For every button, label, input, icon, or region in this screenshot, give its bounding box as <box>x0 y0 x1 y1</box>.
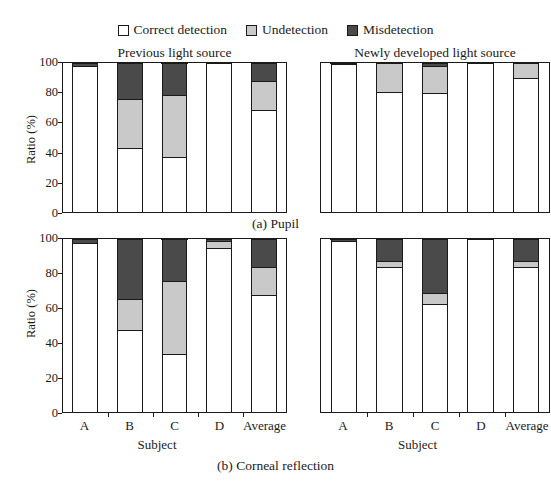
bar-top-edge <box>376 63 403 64</box>
bar-segment-misdetection <box>163 239 187 282</box>
y-tick-label: 80 <box>46 85 59 100</box>
legend-label-correct: Correct detection <box>134 22 227 38</box>
y-axis-ticks-corneal: 020406080100 <box>28 238 58 413</box>
bar-segment-undetection <box>252 82 276 110</box>
x-axis-labels-right: ABCDAverage <box>320 418 550 434</box>
group-title-newly-pupil: Newly developed light source <box>320 45 550 61</box>
stacked-bar <box>331 63 357 212</box>
bar-cell <box>241 63 286 212</box>
bar-top-edge <box>513 239 540 240</box>
plot-pupil-newly <box>320 62 550 213</box>
bar-cell <box>241 239 286 412</box>
bar-top-edge <box>206 63 232 64</box>
bar-segment-correct-detection <box>423 94 447 212</box>
x-tick-label: B <box>107 418 152 434</box>
bar-group-pupil-newly <box>321 63 549 212</box>
bar-segment-correct-detection <box>207 249 231 412</box>
bar-segment-undetection <box>118 300 142 331</box>
caption-corneal: (b) Corneal reflection <box>0 458 551 474</box>
stacked-bar <box>117 239 143 412</box>
y-tick-mark <box>58 413 62 414</box>
x-tick-mark <box>505 413 506 417</box>
bar-cell <box>63 239 108 412</box>
stacked-bar <box>162 239 188 412</box>
bar-segment-correct-detection <box>377 268 401 412</box>
bar-group-pupil-previous <box>63 63 286 212</box>
stacked-bar <box>72 63 98 212</box>
bar-segment-correct-detection <box>514 268 538 412</box>
figure-root: Correct detection Undetection Misdetecti… <box>0 0 551 494</box>
bar-segment-correct-detection <box>377 93 401 212</box>
bar-cell <box>63 63 108 212</box>
bar-segment-undetection <box>377 262 401 269</box>
bar-segment-correct-detection <box>423 305 447 412</box>
y-tick-label: 40 <box>46 336 59 351</box>
bar-segment-misdetection <box>118 239 142 300</box>
y-tick-label: 80 <box>46 266 59 281</box>
legend-swatch-correct-icon <box>118 25 129 36</box>
stacked-bar <box>422 63 448 212</box>
bar-top-edge <box>251 63 277 64</box>
bar-segment-undetection <box>514 262 538 269</box>
bar-segment-misdetection <box>163 63 187 96</box>
bar-cell <box>503 63 549 212</box>
bar-segment-misdetection <box>118 63 142 100</box>
stacked-bar <box>331 239 357 412</box>
bar-cell <box>152 239 197 412</box>
bar-top-edge <box>251 239 277 240</box>
stacked-bar <box>513 239 539 412</box>
x-axis-title-left: Subject <box>62 437 252 453</box>
bar-segment-undetection <box>118 100 142 149</box>
legend: Correct detection Undetection Misdetecti… <box>0 22 551 38</box>
bar-cell <box>108 239 153 412</box>
x-tick-mark <box>459 413 460 417</box>
group-title-previous-pupil: Previous light source <box>62 45 287 61</box>
y-tick-mark <box>58 213 62 214</box>
y-tick-label: 20 <box>46 371 59 386</box>
bar-cell <box>367 239 413 412</box>
bar-segment-correct-detection <box>514 79 538 212</box>
bar-top-edge <box>467 239 494 240</box>
bar-cell <box>412 239 458 412</box>
plot-pupil-previous <box>62 62 287 213</box>
bar-segment-misdetection <box>377 239 401 261</box>
bar-top-edge <box>206 239 232 240</box>
x-tick-label: D <box>197 418 242 434</box>
bar-segment-correct-detection <box>332 65 356 212</box>
legend-label-undetection: Undetection <box>262 22 328 38</box>
x-tick-mark <box>413 413 414 417</box>
bar-segment-misdetection <box>252 239 276 268</box>
bar-segment-misdetection <box>514 239 538 261</box>
x-tick-mark <box>153 413 154 417</box>
y-tick-label: 100 <box>39 231 58 246</box>
bar-segment-correct-detection <box>207 64 231 212</box>
stacked-bar <box>206 239 232 412</box>
bar-segment-undetection <box>514 63 538 79</box>
legend-swatch-undetection-icon <box>246 25 257 36</box>
caption-pupil: (a) Pupil <box>0 216 551 232</box>
bar-top-edge <box>376 239 403 240</box>
x-tick-label: Average <box>504 418 550 434</box>
bar-segment-undetection <box>163 282 187 355</box>
stacked-bar <box>251 239 277 412</box>
bar-segment-undetection <box>423 67 447 94</box>
bar-cell <box>321 63 367 212</box>
bar-segment-correct-detection <box>332 242 356 412</box>
x-tick-label: A <box>62 418 107 434</box>
bar-top-edge <box>117 63 143 64</box>
bar-top-edge <box>161 239 187 240</box>
bar-top-edge <box>117 239 143 240</box>
bar-top-edge <box>467 63 494 64</box>
stacked-bar <box>422 239 448 412</box>
bar-group-corneal-previous <box>63 239 286 412</box>
x-axis-title-right: Subject <box>320 437 515 453</box>
x-tick-label: Average <box>242 418 287 434</box>
bar-segment-correct-detection <box>73 244 97 412</box>
bar-cell <box>458 239 504 412</box>
bar-segment-correct-detection <box>468 63 492 212</box>
x-tick-mark <box>367 413 368 417</box>
bar-segment-undetection <box>252 268 276 296</box>
bar-segment-correct-detection <box>163 355 187 412</box>
stacked-bar <box>376 63 402 212</box>
bar-cell <box>503 239 549 412</box>
